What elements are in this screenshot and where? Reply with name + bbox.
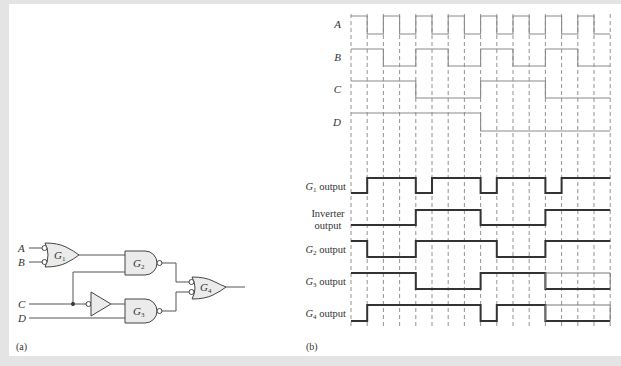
- signal-label-a: A: [333, 18, 341, 30]
- inversion-bubble-icon: [189, 280, 194, 285]
- signal-label-d: D: [332, 116, 341, 128]
- waveform-b: [351, 49, 610, 66]
- inversion-bubble-icon: [189, 290, 194, 295]
- waveform-g4: [351, 305, 610, 321]
- circuit-diagram: A B C D G1 G2: [16, 242, 245, 353]
- caption-a: (a): [16, 341, 27, 353]
- input-label-d: D: [17, 312, 26, 324]
- gate-g3-nand: G3: [125, 299, 162, 323]
- signal-label-b: B: [334, 51, 341, 63]
- waveform-g3: [351, 273, 610, 289]
- waveform-c: [351, 81, 610, 98]
- waveform-inv: [351, 210, 610, 225]
- waveform-a: [351, 16, 610, 34]
- signal-label-c: C: [334, 83, 342, 95]
- inversion-bubble-icon: [157, 261, 162, 266]
- gate-g2-nand: G2: [125, 251, 162, 275]
- logic-figure: A B C D G1 G2: [0, 0, 621, 366]
- inversion-bubble-icon: [157, 309, 162, 314]
- input-label-b: B: [18, 256, 25, 268]
- caption-b: (b): [306, 341, 318, 353]
- inverter-gate: [86, 292, 111, 316]
- signal-label-g3-output: G3 output: [305, 276, 346, 289]
- input-label-c: C: [18, 298, 26, 310]
- gate-g4-or: G4: [189, 277, 226, 299]
- timing-diagram: A B C D G1 output Inverter output G2 out…: [305, 14, 610, 353]
- signal-label-g4-output: G4 output: [305, 308, 346, 321]
- waveform-g1: [351, 178, 610, 193]
- signal-label-g1-output: G1 output: [305, 181, 346, 194]
- waveform-d: [351, 113, 610, 131]
- gate-g1-or: G1: [42, 243, 79, 267]
- inversion-bubble-icon: [42, 246, 47, 251]
- signal-label-inverter-output-line2: output: [315, 220, 342, 231]
- input-label-a: A: [17, 242, 25, 254]
- signal-label-inverter-output-line1: Inverter: [311, 208, 345, 219]
- inversion-bubble-icon: [42, 260, 47, 265]
- signal-label-g2-output: G2 output: [305, 244, 346, 257]
